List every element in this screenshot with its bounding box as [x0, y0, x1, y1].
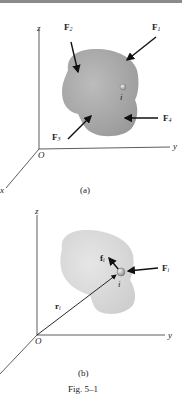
particle-b: [117, 268, 125, 276]
y-axis-label-b: y: [168, 331, 172, 340]
panel-b-caption: (b): [78, 369, 89, 378]
force-f1-arrow: [127, 37, 156, 60]
external-force-label: Fi: [162, 264, 169, 273]
y-axis-label-a: y: [173, 142, 177, 151]
free-body-diagram: [0, 0, 188, 406]
y-axis: [39, 147, 170, 149]
panel-b: [0, 215, 165, 374]
particle-label-b: i: [118, 280, 121, 289]
origin-label-b: O: [35, 337, 42, 346]
origin-label-a: O: [38, 151, 45, 160]
x-axis-label-a: x: [0, 186, 4, 195]
rigid-body-a: [62, 49, 138, 136]
internal-force-label: fi: [100, 254, 105, 263]
z-axis-label-b: z: [35, 207, 39, 216]
figure-caption: Fig. 5–1: [68, 385, 98, 394]
panel-a-caption: (a): [80, 186, 90, 195]
panel-a: [6, 29, 170, 188]
force-f2-label: F2: [64, 23, 73, 32]
force-f3-label: F3: [52, 133, 61, 142]
particle-a: [120, 84, 126, 90]
particle-label-a: i: [120, 93, 123, 102]
z-axis-label-a: z: [37, 24, 41, 33]
force-f1-label: F1: [152, 23, 161, 32]
position-vector-label: ri: [55, 302, 61, 311]
force-f4-label: F4: [163, 114, 172, 123]
x-axis-b: [0, 335, 37, 374]
x-axis: [6, 149, 39, 188]
